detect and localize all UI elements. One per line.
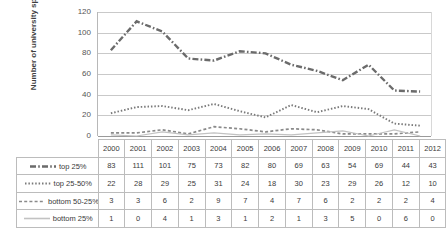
cell-value: 5 (339, 210, 366, 228)
y-tick-100: 100 (65, 29, 91, 37)
cell-value: 83 (98, 157, 125, 175)
cell-value: 31 (205, 175, 232, 193)
table-header-row: 2000200120022003200420052006200720082009… (17, 140, 446, 158)
column-header-2004: 2004 (205, 140, 232, 158)
column-header-2009: 2009 (339, 140, 366, 158)
cell-value: 2 (259, 210, 286, 228)
column-header-2012: 2012 (419, 140, 446, 158)
y-tick-20: 20 (65, 111, 91, 119)
cell-value: 2 (339, 192, 366, 210)
y-axis-title: Number of university spin-outs (29, 0, 43, 91)
series-lines (98, 12, 433, 136)
table-row: bottom 50-25%3362974762224 (17, 192, 446, 210)
cell-value: 28 (125, 175, 152, 193)
column-header-2003: 2003 (178, 140, 205, 158)
cell-value: 7 (285, 192, 312, 210)
legend-item-bottom-50-25-: bottom 50-25% (17, 192, 99, 210)
cell-value: 3 (98, 192, 125, 210)
cell-value: 4 (259, 192, 286, 210)
cell-value: 69 (285, 157, 312, 175)
column-header-2006: 2006 (259, 140, 286, 158)
cell-value: 6 (312, 192, 339, 210)
legend-item-label: bottom 25% (53, 214, 93, 223)
cell-value: 30 (285, 175, 312, 193)
cell-value: 1 (178, 210, 205, 228)
cell-value: 29 (339, 175, 366, 193)
cell-value: 6 (392, 210, 419, 228)
cell-value: 6 (152, 192, 179, 210)
cell-value: 22 (98, 175, 125, 193)
legend-item-label: top 25-50% (54, 179, 92, 188)
legend-item-top-25-: top 25% (17, 157, 99, 175)
y-tick-60: 60 (65, 70, 91, 78)
cell-value: 29 (152, 175, 179, 193)
cell-value: 0 (419, 210, 446, 228)
legend-line-swatch-icon (19, 198, 45, 205)
legend-line-swatch-icon (25, 180, 51, 187)
legend-item-top-25-50-: top 25-50% (17, 175, 99, 193)
cell-value: 2 (392, 192, 419, 210)
table-corner-cell (17, 140, 99, 158)
series-line-bottom-25- (111, 130, 420, 136)
cell-value: 0 (366, 210, 393, 228)
cell-value: 1 (232, 210, 259, 228)
cell-value: 80 (259, 157, 286, 175)
column-header-2005: 2005 (232, 140, 259, 158)
cell-value: 25 (178, 175, 205, 193)
cell-value: 101 (152, 157, 179, 175)
column-header-2000: 2000 (98, 140, 125, 158)
table-row: top 25-50%22282925312418302329261210 (17, 175, 446, 193)
plot-area (97, 12, 432, 136)
legend-item-label: top 25% (59, 162, 87, 171)
cell-value: 82 (232, 157, 259, 175)
column-header-2002: 2002 (152, 140, 179, 158)
cell-value: 2 (178, 192, 205, 210)
cell-value: 1 (98, 210, 125, 228)
cell-value: 73 (205, 157, 232, 175)
cell-value: 3 (312, 210, 339, 228)
table-header: 2000200120022003200420052006200720082009… (17, 140, 446, 158)
cell-value: 9 (205, 192, 232, 210)
cell-value: 3 (205, 210, 232, 228)
y-tick-120: 120 (65, 8, 91, 16)
cell-value: 54 (339, 157, 366, 175)
column-header-2007: 2007 (285, 140, 312, 158)
table-row: bottom 25%1041312135060 (17, 210, 446, 228)
cell-value: 23 (312, 175, 339, 193)
column-header-2010: 2010 (366, 140, 393, 158)
spin-outs-line-chart: Number of university spin-outs 120100806… (0, 0, 441, 227)
cell-value: 44 (392, 157, 419, 175)
cell-value: 0 (125, 210, 152, 228)
y-tick-40: 40 (65, 91, 91, 99)
series-line-top-25- (111, 21, 420, 91)
data-table: 2000200120022003200420052006200720082009… (16, 139, 446, 228)
cell-value: 63 (312, 157, 339, 175)
cell-value: 18 (259, 175, 286, 193)
table-body: top 25%8311110175738280696354694443top 2… (17, 157, 446, 227)
cell-value: 26 (366, 175, 393, 193)
legend-item-bottom-25-: bottom 25% (17, 210, 99, 228)
column-header-2008: 2008 (312, 140, 339, 158)
y-tick-80: 80 (65, 49, 91, 57)
cell-value: 75 (178, 157, 205, 175)
cell-value: 4 (152, 210, 179, 228)
cell-value: 7 (232, 192, 259, 210)
cell-value: 111 (125, 157, 152, 175)
series-line-top-25-50- (111, 104, 420, 126)
cell-value: 43 (419, 157, 446, 175)
cell-value: 2 (366, 192, 393, 210)
cell-value: 4 (419, 192, 446, 210)
column-header-2011: 2011 (392, 140, 419, 158)
cell-value: 10 (419, 175, 446, 193)
cell-value: 24 (232, 175, 259, 193)
cell-value: 12 (392, 175, 419, 193)
cell-value: 1 (285, 210, 312, 228)
column-header-2001: 2001 (125, 140, 152, 158)
table-row: top 25%8311110175738280696354694443 (17, 157, 446, 175)
cell-value: 69 (366, 157, 393, 175)
gridline-0 (98, 136, 431, 137)
legend-line-swatch-icon (24, 215, 50, 222)
legend-item-label: bottom 50-25% (48, 197, 98, 206)
legend-line-swatch-icon (30, 163, 56, 170)
cell-value: 3 (125, 192, 152, 210)
